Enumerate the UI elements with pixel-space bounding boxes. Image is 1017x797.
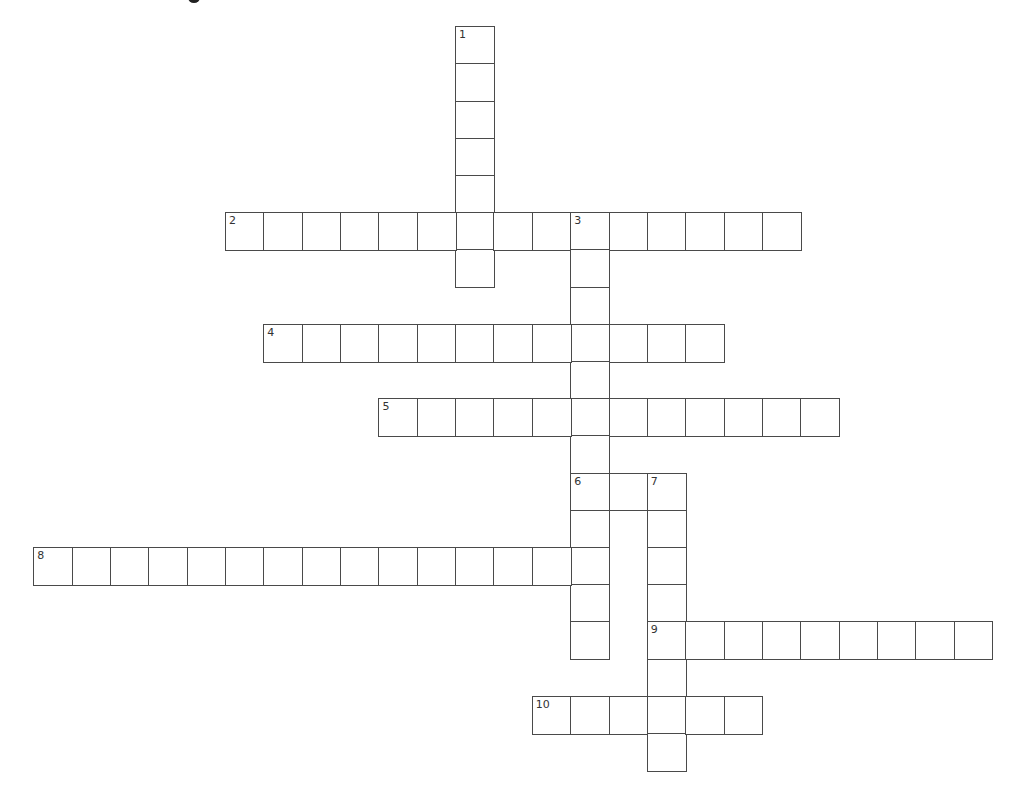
crossword-cell[interactable] — [417, 398, 457, 437]
crossword-cell[interactable] — [570, 696, 610, 735]
cell-letter-input[interactable] — [610, 213, 648, 250]
crossword-cell[interactable] — [455, 324, 495, 363]
cell-letter-input[interactable] — [571, 325, 609, 362]
crossword-cell[interactable] — [570, 361, 610, 400]
crossword-cell[interactable] — [724, 621, 764, 660]
crossword-cell[interactable] — [378, 212, 418, 251]
crossword-cell[interactable] — [263, 547, 303, 586]
cell-letter-input[interactable] — [456, 399, 494, 436]
cell-letter-input[interactable] — [111, 548, 149, 585]
crossword-cell[interactable] — [302, 212, 342, 251]
crossword-cell[interactable] — [455, 101, 495, 140]
crossword-cell[interactable] — [609, 212, 649, 251]
crossword-cell[interactable] — [570, 287, 610, 326]
cell-letter-input[interactable] — [686, 622, 724, 659]
crossword-cell[interactable] — [685, 324, 725, 363]
cell-letter-input[interactable] — [725, 622, 763, 659]
crossword-cell[interactable] — [954, 621, 994, 660]
cell-letter-input[interactable] — [648, 548, 686, 585]
crossword-cell[interactable] — [378, 547, 418, 586]
cell-letter-input[interactable] — [418, 213, 456, 250]
cell-letter-input[interactable] — [456, 213, 494, 250]
crossword-cell[interactable] — [647, 584, 687, 623]
crossword-cell[interactable]: 4 — [263, 324, 303, 363]
crossword-cell[interactable] — [647, 398, 687, 437]
cell-letter-input[interactable] — [801, 622, 839, 659]
cell-letter-input[interactable] — [648, 511, 686, 548]
crossword-cell[interactable] — [417, 547, 457, 586]
cell-letter-input[interactable] — [533, 325, 571, 362]
cell-letter-input[interactable] — [456, 548, 494, 585]
crossword-cell[interactable] — [532, 212, 572, 251]
crossword-cell[interactable] — [800, 621, 840, 660]
crossword-cell[interactable] — [762, 621, 802, 660]
cell-letter-input[interactable] — [571, 548, 609, 585]
cell-letter-input[interactable] — [341, 548, 379, 585]
cell-letter-input[interactable] — [686, 697, 724, 734]
cell-letter-input[interactable] — [379, 325, 417, 362]
crossword-cell[interactable] — [340, 547, 380, 586]
cell-letter-input[interactable] — [571, 585, 609, 622]
crossword-cell[interactable] — [915, 621, 955, 660]
crossword-cell[interactable] — [609, 398, 649, 437]
cell-letter-input[interactable] — [418, 548, 456, 585]
cell-letter-input[interactable] — [725, 213, 763, 250]
cell-letter-input[interactable] — [571, 436, 609, 473]
cell-letter-input[interactable] — [456, 139, 494, 176]
crossword-cell[interactable] — [800, 398, 840, 437]
crossword-cell[interactable] — [570, 324, 610, 363]
cell-letter-input[interactable] — [840, 622, 878, 659]
crossword-cell[interactable] — [762, 212, 802, 251]
crossword-cell[interactable]: 8 — [33, 547, 73, 586]
cell-letter-input[interactable] — [648, 734, 686, 771]
cell-letter-input[interactable] — [303, 213, 341, 250]
crossword-cell[interactable] — [762, 398, 802, 437]
cell-letter-input[interactable] — [264, 213, 302, 250]
cell-letter-input[interactable] — [610, 325, 648, 362]
crossword-cell[interactable] — [532, 547, 572, 586]
cell-letter-input[interactable] — [264, 325, 302, 362]
cell-letter-input[interactable] — [648, 399, 686, 436]
cell-letter-input[interactable] — [571, 622, 609, 659]
crossword-cell[interactable] — [225, 547, 265, 586]
crossword-cell[interactable]: 10 — [532, 696, 572, 735]
crossword-cell[interactable] — [455, 212, 495, 251]
crossword-cell[interactable] — [647, 547, 687, 586]
crossword-cell[interactable] — [685, 212, 725, 251]
crossword-cell[interactable] — [302, 547, 342, 586]
cell-letter-input[interactable] — [763, 622, 801, 659]
cell-letter-input[interactable] — [456, 27, 494, 64]
cell-letter-input[interactable] — [379, 213, 417, 250]
cell-letter-input[interactable] — [610, 697, 648, 734]
cell-letter-input[interactable] — [341, 325, 379, 362]
cell-letter-input[interactable] — [648, 585, 686, 622]
crossword-cell[interactable] — [647, 659, 687, 698]
cell-letter-input[interactable] — [456, 102, 494, 139]
crossword-cell[interactable] — [532, 398, 572, 437]
cell-letter-input[interactable] — [494, 325, 532, 362]
crossword-cell[interactable] — [493, 547, 533, 586]
crossword-cell[interactable] — [493, 212, 533, 251]
crossword-cell[interactable] — [647, 733, 687, 772]
cell-letter-input[interactable] — [494, 213, 532, 250]
cell-letter-input[interactable] — [725, 399, 763, 436]
crossword-cell[interactable] — [647, 696, 687, 735]
cell-letter-input[interactable] — [955, 622, 993, 659]
cell-letter-input[interactable] — [456, 64, 494, 101]
cell-letter-input[interactable] — [571, 288, 609, 325]
crossword-cell[interactable] — [685, 621, 725, 660]
crossword-cell[interactable] — [570, 435, 610, 474]
crossword-cell[interactable] — [685, 398, 725, 437]
cell-letter-input[interactable] — [725, 697, 763, 734]
crossword-cell[interactable] — [493, 398, 533, 437]
crossword-cell[interactable]: 5 — [378, 398, 418, 437]
cell-letter-input[interactable] — [763, 213, 801, 250]
cell-letter-input[interactable] — [648, 325, 686, 362]
crossword-cell[interactable] — [570, 621, 610, 660]
crossword-cell[interactable] — [187, 547, 227, 586]
cell-letter-input[interactable] — [763, 399, 801, 436]
crossword-cell[interactable] — [72, 547, 112, 586]
cell-letter-input[interactable] — [648, 622, 686, 659]
cell-letter-input[interactable] — [494, 548, 532, 585]
crossword-cell[interactable] — [263, 212, 303, 251]
